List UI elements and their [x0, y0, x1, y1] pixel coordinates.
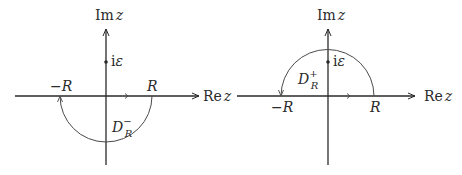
diagram-lower: Imz Rez iε −R R D−R — [15, 7, 232, 165]
i-epsilon-label: iε — [333, 53, 345, 69]
real-axis-label: Rez — [203, 88, 232, 104]
real-axis-label: Rez — [424, 88, 453, 104]
imaginary-axis-label: Imz — [95, 7, 124, 23]
diagram-upper: Imz Rez iε −R R D+R — [237, 7, 453, 165]
neg-R-label: −R — [271, 99, 294, 115]
region-label-D-R-plus: D+R — [297, 68, 319, 91]
neg-R-label: −R — [50, 78, 73, 94]
region-label-D-R-minus: D−R — [111, 116, 133, 139]
i-epsilon-point — [104, 60, 108, 64]
pos-R-label: R — [146, 78, 158, 94]
contour-diagrams: Imz Rez iε −R R D−R Imz Rez iε −R R D+R — [0, 0, 462, 175]
imaginary-axis-label: Imz — [317, 7, 346, 23]
i-epsilon-label: iε — [111, 53, 123, 69]
pos-R-label: R — [369, 99, 381, 115]
i-epsilon-point — [326, 60, 330, 64]
